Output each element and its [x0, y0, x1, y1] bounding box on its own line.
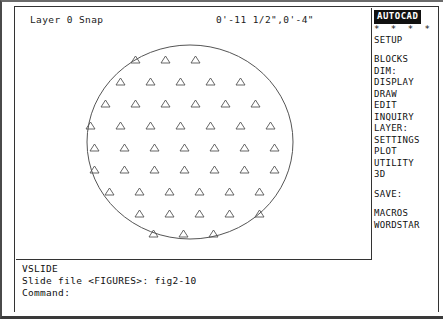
hatch-triangle — [236, 122, 245, 129]
side-menu-item-3d[interactable]: 3D — [374, 169, 436, 181]
hatch-triangle — [195, 188, 204, 195]
side-menu-item-utility[interactable]: UTILITY — [374, 158, 436, 170]
hatch-triangle — [195, 210, 204, 217]
side-menu-item-settings[interactable]: SETTINGS — [374, 135, 436, 147]
side-menu-spacer — [374, 181, 436, 189]
hatch-triangle — [270, 166, 279, 173]
side-menu-title-row: AUTOCAD — [374, 10, 436, 24]
hatch-triangle — [161, 56, 170, 63]
autocad-menu-title[interactable]: AUTOCAD — [374, 10, 421, 24]
hatch-triangle — [270, 144, 279, 151]
hatch-triangle — [116, 122, 125, 129]
hatch-triangle — [105, 188, 114, 195]
triangle-hatch-pattern — [86, 56, 279, 237]
side-menu-item-macros[interactable]: MACROS — [374, 208, 436, 220]
hatch-triangle — [206, 78, 215, 85]
hatched-ellipse-drawing — [16, 30, 371, 259]
hatch-triangle — [240, 144, 249, 151]
hatch-triangle — [191, 56, 200, 63]
hatch-triangle — [90, 144, 99, 151]
side-menu-item-save[interactable]: SAVE: — [374, 189, 436, 201]
hatch-triangle — [116, 78, 125, 85]
hatch-triangle — [225, 188, 234, 195]
hatch-triangle — [120, 166, 129, 173]
hatch-triangle — [176, 122, 185, 129]
side-menu-item-dim[interactable]: DIM: — [374, 66, 436, 78]
hatch-triangle — [120, 144, 129, 151]
hatch-triangle — [210, 166, 219, 173]
drawing-canvas[interactable] — [16, 30, 371, 259]
hatch-triangle — [206, 122, 215, 129]
ellipse-outline — [87, 45, 293, 239]
hatch-triangle — [255, 188, 264, 195]
hatch-triangle — [191, 100, 200, 107]
hatch-triangle — [179, 230, 188, 237]
status-bar: Layer 0 Snap 0'-11 1/2",0'-4" — [16, 8, 436, 30]
autocad-screen: Layer 0 Snap 0'-11 1/2",0'-4" AUTOCAD * … — [0, 0, 443, 319]
hatch-triangle — [86, 122, 95, 129]
side-menu-item-layer[interactable]: LAYER: — [374, 123, 436, 135]
side-menu-item-draw[interactable]: DRAW — [374, 89, 436, 101]
command-line-divider — [16, 259, 372, 260]
side-menu-item-plot[interactable]: PLOT — [374, 146, 436, 158]
hatch-triangle — [161, 100, 170, 107]
command-prompt-area[interactable]: VSLIDESlide file <FIGURES>: fig2-10Comma… — [16, 263, 436, 311]
layer-status-text: Layer 0 Snap — [30, 14, 103, 25]
side-menu-item-inquiry[interactable]: INQUIRY — [374, 112, 436, 124]
hatch-triangle — [266, 122, 275, 129]
side-menu-item-display[interactable]: DISPLAY — [374, 77, 436, 89]
hatch-triangle — [180, 144, 189, 151]
command-line-1[interactable]: Slide file <FIGURES>: fig2-10 — [16, 275, 436, 287]
hatch-triangle — [176, 78, 185, 85]
side-menu-item-setup[interactable]: SETUP — [374, 35, 436, 47]
menu-page-dots[interactable]: * * * * — [374, 24, 436, 35]
side-menu-item-blocks[interactable]: BLOCKS — [374, 54, 436, 66]
hatch-triangle — [146, 122, 155, 129]
hatch-triangle — [236, 78, 245, 85]
side-menu-divider — [371, 8, 372, 259]
hatch-triangle — [251, 100, 260, 107]
hatch-triangle — [135, 210, 144, 217]
hatch-triangle — [146, 78, 155, 85]
hatch-triangle — [165, 210, 174, 217]
command-line-2[interactable]: Command: — [16, 287, 436, 299]
hatch-triangle — [221, 100, 230, 107]
side-screen-menu[interactable]: AUTOCAD * * * * SETUPBLOCKSDIM:DISPLAYDR… — [374, 10, 436, 258]
hatch-triangle — [135, 188, 144, 195]
hatch-triangle — [210, 144, 219, 151]
hatch-triangle — [131, 100, 140, 107]
side-menu-item-list[interactable]: SETUPBLOCKSDIM:DISPLAYDRAWEDITINQUIRYLAY… — [374, 35, 436, 232]
side-menu-item-wordstar[interactable]: WORDSTAR — [374, 220, 436, 232]
command-line-0[interactable]: VSLIDE — [16, 263, 436, 275]
hatch-triangle — [240, 166, 249, 173]
hatch-triangle — [180, 166, 189, 173]
side-menu-spacer — [374, 200, 436, 208]
side-menu-item-edit[interactable]: EDIT — [374, 100, 436, 112]
ellipse-boundary — [87, 45, 293, 239]
hatch-triangle — [150, 144, 159, 151]
coordinate-readout: 0'-11 1/2",0'-4" — [216, 14, 314, 25]
hatch-triangle — [165, 188, 174, 195]
hatch-triangle — [225, 210, 234, 217]
side-menu-spacer — [374, 46, 436, 54]
hatch-triangle — [150, 166, 159, 173]
hatch-triangle — [101, 100, 110, 107]
